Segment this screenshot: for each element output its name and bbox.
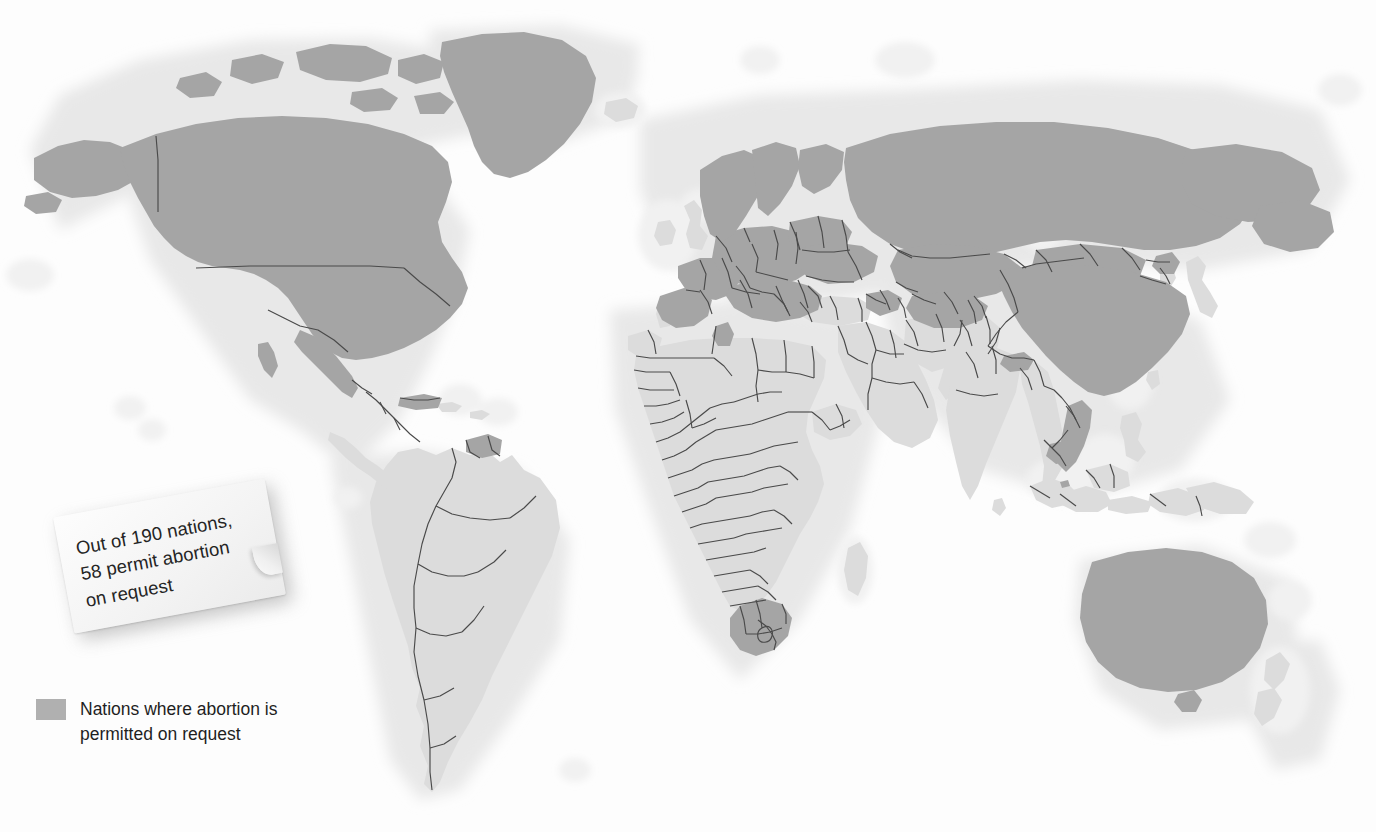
world-map-infographic: Out of 190 nations, 58 permit abortion o… — [0, 0, 1376, 832]
legend-swatch-permitted — [36, 699, 66, 720]
map-legend: Nations where abortion is permitted on r… — [36, 697, 277, 747]
legend-label-permitted: Nations where abortion is permitted on r… — [80, 697, 277, 747]
